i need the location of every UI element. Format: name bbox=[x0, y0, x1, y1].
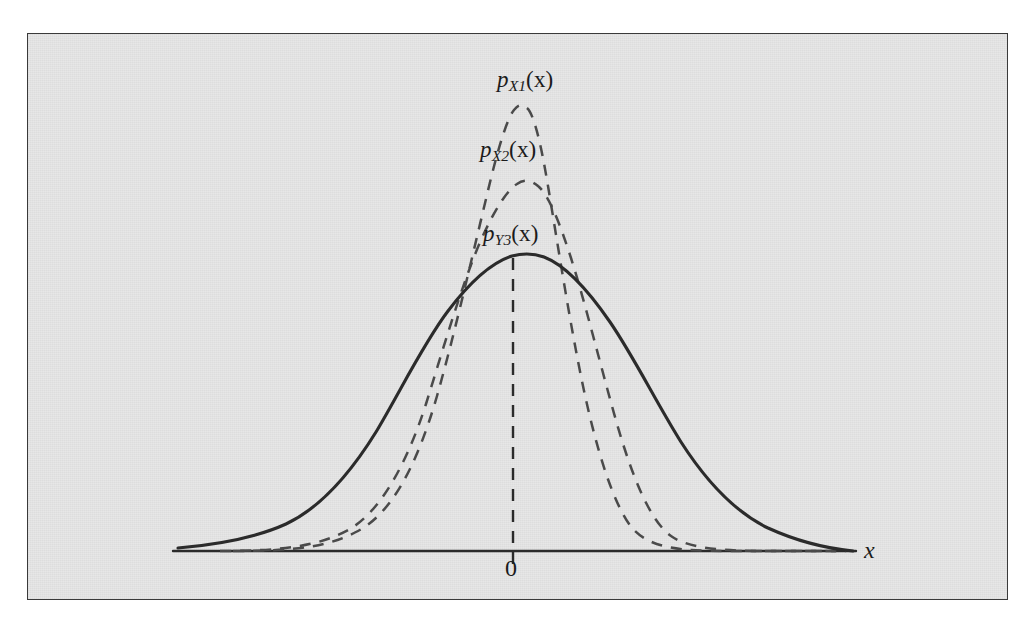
curve-label-px1: pX1(x) bbox=[497, 67, 553, 95]
curve-label-py3-subscript: Y3 bbox=[495, 231, 512, 248]
figure-panel: pX1(x) pX2(x) pY3(x) x 0 bbox=[27, 33, 1008, 600]
curve-label-px2-subscript: X2 bbox=[492, 147, 509, 164]
curve-label-py3: pY3(x) bbox=[483, 221, 539, 249]
curve-label-px1-argument: (x) bbox=[526, 67, 553, 92]
curve-label-px1-subscript: X1 bbox=[509, 77, 526, 94]
curve-label-px2-symbol: p bbox=[480, 137, 492, 162]
curve-px1 bbox=[233, 105, 836, 551]
origin-tick-label: 0 bbox=[505, 555, 517, 582]
x-axis-label: x bbox=[864, 537, 875, 564]
figure-root: pX1(x) pX2(x) pY3(x) x 0 bbox=[0, 0, 1022, 617]
curve-label-px2: pX2(x) bbox=[480, 137, 536, 165]
curve-label-px1-symbol: p bbox=[497, 67, 509, 92]
curve-label-px2-argument: (x) bbox=[509, 137, 536, 162]
curve-label-py3-symbol: p bbox=[483, 221, 495, 246]
probability-density-plot bbox=[28, 34, 1006, 598]
curve-py3 bbox=[178, 254, 853, 551]
curve-label-py3-argument: (x) bbox=[511, 221, 538, 246]
